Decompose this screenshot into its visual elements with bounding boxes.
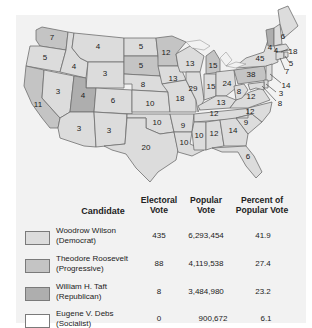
svg-text:10: 10 (180, 138, 189, 147)
candidate-name: Eugene V. Debs (Socialist) (56, 309, 114, 328)
svg-text:18: 18 (176, 94, 185, 103)
svg-text:4: 4 (96, 42, 101, 51)
svg-text:12: 12 (210, 129, 219, 138)
svg-text:6: 6 (281, 32, 286, 41)
electoral-vote: 8 (144, 287, 174, 296)
svg-text:9: 9 (244, 118, 249, 127)
percent-popular-vote: 23.2 (248, 287, 278, 296)
svg-text:13: 13 (217, 98, 226, 107)
header-popular-line2: Vote (181, 206, 231, 216)
header-percent-line2: Popular Vote (228, 206, 296, 216)
state-fl (212, 146, 262, 178)
svg-text:5: 5 (289, 59, 294, 68)
svg-text:13: 13 (186, 59, 195, 68)
header-electoral-vote: Electoral Vote (134, 196, 184, 215)
svg-text:7: 7 (50, 33, 55, 42)
svg-text:10: 10 (146, 99, 155, 108)
percent-popular-vote: 27.4 (248, 259, 278, 268)
svg-text:14: 14 (229, 126, 238, 135)
svg-text:3: 3 (279, 89, 284, 98)
svg-text:10: 10 (153, 118, 162, 127)
svg-text:12: 12 (247, 92, 256, 101)
percent-popular-vote: 41.9 (248, 231, 278, 240)
svg-text:12: 12 (246, 107, 255, 116)
svg-text:20: 20 (142, 143, 151, 152)
svg-text:4: 4 (274, 46, 279, 55)
legend-swatch-debs (25, 314, 50, 328)
svg-text:8: 8 (278, 99, 283, 108)
svg-text:6: 6 (111, 96, 116, 105)
candidate-party: (Progressive) (56, 264, 128, 274)
candidate-party: (Democrat) (56, 236, 116, 246)
percent-popular-vote: 6.1 (251, 314, 281, 323)
candidate-name-text: Eugene V. Debs (56, 309, 114, 319)
popular-vote: 900,672 (183, 314, 243, 323)
table-row-roosevelt: Theodore Roosevelt (Progressive) 88 4,11… (0, 253, 312, 279)
candidate-name-text: Theodore Roosevelt (56, 254, 128, 264)
svg-text:3: 3 (56, 87, 61, 96)
candidate-name: Theodore Roosevelt (Progressive) (56, 254, 128, 273)
electoral-vote: 435 (144, 231, 174, 240)
svg-text:4: 4 (81, 91, 86, 100)
svg-text:3: 3 (107, 126, 112, 135)
electoral-vote: 0 (144, 314, 174, 323)
svg-text:7: 7 (285, 67, 290, 76)
popular-vote: 3,484,980 (176, 287, 236, 296)
svg-text:5: 5 (139, 61, 144, 70)
svg-text:45: 45 (256, 54, 265, 63)
legend-swatch-wilson (25, 231, 50, 245)
svg-text:15: 15 (209, 61, 218, 70)
candidate-name-text: Woodrow Wilson (56, 226, 116, 236)
svg-text:8: 8 (237, 87, 242, 96)
popular-vote: 6,293,454 (176, 231, 236, 240)
svg-text:12: 12 (162, 48, 171, 57)
svg-text:12: 12 (210, 109, 219, 118)
popular-vote: 4,119,538 (176, 259, 236, 268)
us-electoral-map: 7 5 11 4 3 4 3 4 3 6 3 5 5 8 10 10 20 12… (0, 0, 312, 190)
candidate-name: Woodrow Wilson (Democrat) (56, 226, 116, 245)
state-md (248, 82, 264, 90)
header-popular-vote: Popular Vote (181, 196, 231, 215)
svg-text:24: 24 (223, 79, 232, 88)
candidate-name-text: William H. Taft (56, 282, 107, 292)
table-row-wilson: Woodrow Wilson (Democrat) 435 6,293,454 … (0, 225, 312, 251)
candidate-name: William H. Taft (Republican) (56, 282, 107, 301)
svg-text:29: 29 (189, 84, 198, 93)
candidate-party: (Republican) (56, 292, 107, 302)
electoral-vote: 88 (144, 259, 174, 268)
svg-text:38: 38 (247, 70, 256, 79)
svg-text:6: 6 (246, 152, 251, 161)
svg-text:8: 8 (141, 80, 146, 89)
state-nj (266, 64, 272, 82)
svg-text:10: 10 (195, 131, 204, 140)
table-row-debs: Eugene V. Debs (Socialist) 0 900,672 6.1 (0, 308, 312, 328)
svg-text:11: 11 (34, 100, 43, 109)
header-electoral-line2: Vote (134, 206, 184, 216)
svg-text:4: 4 (268, 43, 273, 52)
svg-text:15: 15 (207, 82, 216, 91)
svg-text:18: 18 (289, 47, 298, 56)
svg-text:9: 9 (181, 121, 186, 130)
svg-text:13: 13 (169, 74, 178, 83)
legend-swatch-roosevelt (25, 259, 50, 273)
header-percent-popular-vote: Percent of Popular Vote (228, 196, 296, 215)
svg-text:5: 5 (43, 53, 48, 62)
candidate-party: (Socialist) (56, 319, 114, 328)
legend-swatch-taft (25, 287, 50, 301)
svg-text:3: 3 (103, 69, 108, 78)
svg-text:5: 5 (139, 42, 144, 51)
svg-text:3: 3 (77, 124, 82, 133)
table-row-taft: William H. Taft (Republican) 8 3,484,980… (0, 281, 312, 307)
svg-text:4: 4 (72, 62, 77, 71)
